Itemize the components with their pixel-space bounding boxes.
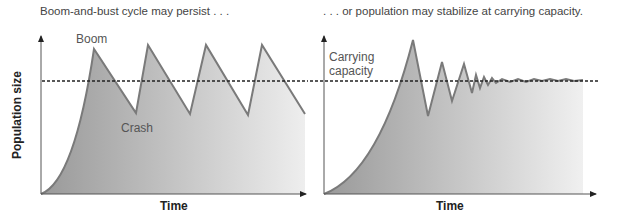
boom-bust-chart xyxy=(41,36,308,194)
carrying-capacity-label-line1: Carrying xyxy=(329,50,374,64)
crash-label: Crash xyxy=(121,121,153,135)
carrying-capacity-label: Carrying capacity xyxy=(329,50,374,78)
right-caption: . . . or population may stabilize at car… xyxy=(323,5,583,17)
x-axis-label-right: Time xyxy=(436,199,464,213)
boom-label: Boom xyxy=(76,32,107,46)
x-axis-label-left: Time xyxy=(160,199,188,213)
carrying-capacity-label-line2: capacity xyxy=(329,64,374,78)
left-caption: Boom-and-bust cycle may persist . . . xyxy=(40,5,229,17)
y-axis-label: Population size xyxy=(10,71,24,159)
